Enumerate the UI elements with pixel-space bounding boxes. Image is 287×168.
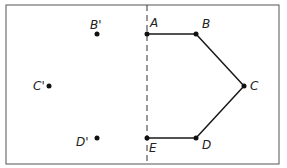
point-d: D <box>194 136 212 153</box>
label-d: D <box>202 138 211 152</box>
reflection-diagram: A B C D E B' C' D' <box>0 0 287 168</box>
point-c-prime: C' <box>33 79 52 93</box>
label-b-prime: B' <box>90 18 102 32</box>
point-d-prime: D' <box>76 135 100 149</box>
point-b-prime: B' <box>90 18 102 37</box>
label-d-prime: D' <box>76 135 89 149</box>
point-c: C <box>242 79 260 93</box>
polygon-outline <box>147 34 244 138</box>
label-b: B <box>202 17 210 31</box>
frame-border <box>6 5 279 164</box>
label-e: E <box>149 141 157 155</box>
label-a: A <box>149 16 158 30</box>
label-c: C <box>250 79 259 93</box>
point-b: B <box>194 17 211 37</box>
label-c-prime: C' <box>33 79 45 93</box>
